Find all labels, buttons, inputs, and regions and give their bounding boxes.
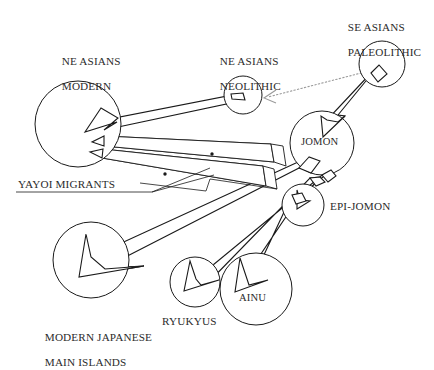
label-ainu: AINU — [239, 292, 266, 305]
node-ainu[interactable] — [220, 253, 292, 325]
label-ne-asians-neolithic: NE ASIANS NEOLITHIC — [208, 42, 281, 105]
label-modern-japanese: MODERN JAPANESE MAIN ISLANDS — [33, 318, 152, 370]
label-modern-japanese-line2: MAIN ISLANDS — [45, 356, 127, 368]
label-epi-jomon: EPI-JOMON — [330, 200, 390, 213]
label-yayoi-migrants: YAYOI MIGRANTS — [18, 178, 115, 191]
label-modern-japanese-line1: MODERN JAPANESE — [45, 331, 152, 343]
label-ryukyus: RYUKYUS — [162, 315, 217, 328]
label-se-asians-paleolithic: SE ASIANS PALEOLITHIC — [336, 8, 421, 71]
label-ne-asians-neolithic-line2: NEOLITHIC — [220, 80, 281, 92]
label-se-asians-paleolithic-line2: PALEOLITHIC — [348, 46, 421, 58]
label-jomon: JOMON — [301, 136, 338, 149]
label-ne-asians-neolithic-line1: NE ASIANS — [220, 55, 279, 67]
label-ne-asians-modern-line2: MODERN — [62, 80, 111, 92]
label-ne-asians-modern: NE ASIANS MODERN — [50, 42, 121, 105]
label-ne-asians-modern-line1: NE ASIANS — [62, 55, 121, 67]
label-se-asians-paleolithic-line1: SE ASIANS — [348, 21, 405, 33]
